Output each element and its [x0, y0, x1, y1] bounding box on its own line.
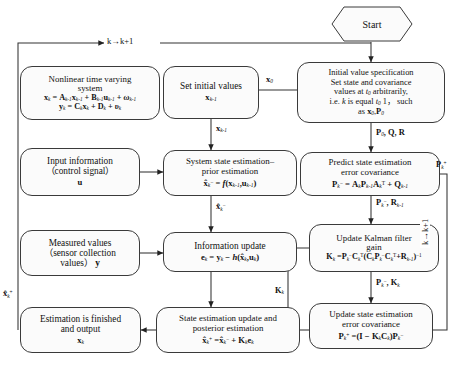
loop-label-right: k→k+1	[420, 216, 430, 248]
initial-value-spec-line5: as x0,P0	[358, 107, 384, 117]
start-node[interactable]: Start	[331, 6, 413, 42]
node-measured-values[interactable]: Measured values （sensor collection value…	[20, 230, 140, 276]
update-covariance-line2: error covariance	[342, 320, 400, 330]
state-update-posterior-eq1: x̂k+ =x̂k− + Kkek	[202, 336, 253, 346]
node-initial-value-specification[interactable]: Initial value specification Set state an…	[297, 62, 445, 123]
measured-values-line1: Measured values	[49, 238, 112, 248]
state-update-posterior-line2: posterior estimation	[193, 324, 264, 334]
initial-value-spec-line4: i.e. k is equal t0 1， such	[330, 97, 413, 107]
start-label: Start	[363, 19, 382, 30]
predict-covariance-line2: error covariance	[341, 168, 399, 178]
information-update-eq1: ek = yk − h(x̂k,uk)	[201, 253, 259, 263]
initial-value-spec-line2: Set state and covariance	[331, 78, 412, 87]
input-information-line2: （control signal）	[46, 166, 115, 176]
node-state-update-posterior[interactable]: State estimation update and posterior es…	[156, 307, 300, 353]
measured-values-line2: （sensor collection	[44, 248, 116, 258]
initial-value-spec-line3: values at t0 arbitrarily,	[334, 87, 408, 97]
loop-label-top: k→k+1	[104, 36, 136, 46]
node-estimation-finished[interactable]: Estimation is finished and output xk	[20, 307, 141, 353]
set-initial-values-line1: Set initial values	[180, 81, 242, 91]
edge-label-x0: x0	[266, 75, 273, 84]
node-update-covariance[interactable]: Update state estimation error covariance…	[309, 303, 433, 349]
estimation-finished-eq1: xk	[77, 336, 84, 346]
system-state-estimation-eq1: x̂k− = f(xk-1,uk-1)	[204, 179, 257, 189]
flowchart-canvas: Start Nonlinear time varying system xk =…	[0, 0, 455, 369]
node-predict-covariance[interactable]: Predict state estimation error covarianc…	[300, 152, 440, 196]
initial-value-spec-line1: Initial value specification	[328, 68, 413, 77]
node-information-update[interactable]: Information update ek = yk − h(x̂k,uk)	[163, 232, 297, 272]
update-kalman-gain-eq1: Kk =Pk−CkT(CkPk−CkT+Rk-1)−1	[326, 253, 422, 262]
edge-label-xhat-posterior: x̂k+	[3, 289, 13, 299]
node-set-initial-values[interactable]: Set initial values xk-1	[163, 66, 259, 119]
input-information-eq1: u	[78, 178, 83, 187]
edge-label-xk-1: xk-1	[216, 124, 227, 133]
information-update-line1: Information update	[194, 241, 266, 251]
predict-covariance-eq1: Pk− = AkPk-1AkT + Qk-1	[332, 180, 408, 190]
edge-label-pk-rk-1: Pk−, Rk-1	[376, 198, 404, 208]
node-input-information[interactable]: Input information （control signal） u	[20, 148, 140, 196]
input-information-line1: Input information	[47, 156, 113, 166]
estimation-finished-line2: and output	[61, 324, 101, 334]
nonlinear-system-eq2: yk = Ckxk + Dk + υk	[59, 103, 121, 112]
update-covariance-eq1: Pk+ =(I − KkCk)Pk−	[339, 332, 404, 342]
edge-label-pk-kk: Pk−, Kk	[376, 278, 400, 288]
measured-values-line3: values） y	[60, 258, 100, 268]
node-system-state-estimation[interactable]: System state estimation– prior estimatio…	[163, 150, 297, 196]
set-initial-values-eq1: xk-1	[205, 93, 216, 103]
node-nonlinear-system[interactable]: Nonlinear time varying system xk = Ak-1x…	[20, 66, 160, 120]
edge-label-pk-plus-feedback: Pk+	[436, 160, 447, 170]
estimation-finished-line1: Estimation is finished	[40, 314, 121, 324]
system-state-estimation-line2: prior estimation	[202, 167, 258, 177]
edge-label-xhat-prior: x̂k−	[216, 202, 226, 212]
edge-label-kk: Kk	[275, 286, 284, 295]
edge-label-p0-q-r: P0, Q, R	[376, 128, 405, 137]
